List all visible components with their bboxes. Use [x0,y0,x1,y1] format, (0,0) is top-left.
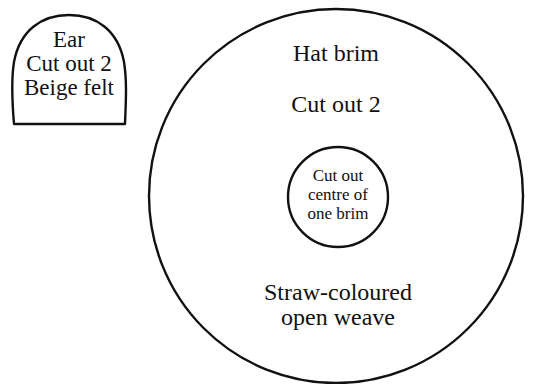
hat-brim-cut-instruction: Cut out 2 [236,91,436,118]
ear-material: Beige felt [12,76,126,100]
hat-brim-material-label: Straw-coloured open weave [216,280,460,330]
centre-cutout-line-3: one brim [288,204,388,223]
centre-cutout-line-1: Cut out [288,166,388,185]
ear-cut-instruction: Cut out 2 [12,52,126,76]
centre-cutout-line-2: centre of [288,185,388,204]
ear-piece-label: Ear Cut out 2 Beige felt [12,28,126,100]
ear-title: Ear [12,28,126,52]
material-line-2: open weave [216,305,460,330]
material-line-1: Straw-coloured [216,280,460,305]
centre-cutout-label: Cut out centre of one brim [288,166,388,223]
hat-brim-title: Hat brim [236,40,436,67]
